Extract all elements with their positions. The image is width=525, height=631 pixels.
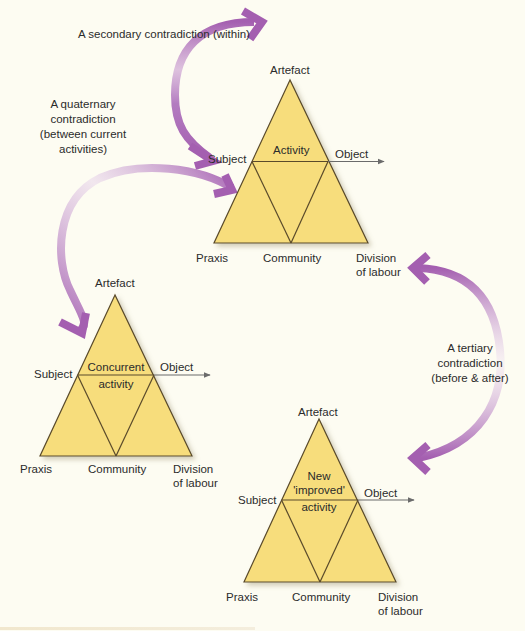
quaternary-line-4: activities)	[28, 142, 138, 157]
t1-praxis-label: Praxis	[196, 251, 228, 265]
t1-object-label: Object	[335, 147, 368, 161]
t3-center-line-2: 'improved'	[283, 483, 355, 497]
t1-division-line-2: of labour	[356, 265, 401, 279]
t1-division-label: Division of labour	[356, 251, 401, 279]
t3-object-label: Object	[364, 486, 397, 500]
quaternary-line-1: A quaternary	[28, 97, 138, 112]
t2-center-line-2: activity	[82, 377, 150, 391]
t2-praxis-label: Praxis	[20, 462, 52, 476]
tertiary-line-2: contradiction	[420, 356, 520, 371]
t3-center-line-1: New	[283, 469, 355, 483]
t2-division-line-1: Division	[173, 462, 218, 476]
t3-artefact-label: Artefact	[298, 405, 338, 419]
t3-praxis-label: Praxis	[226, 590, 258, 604]
tertiary-line-3: (before & after)	[420, 371, 520, 386]
t2-center-line-1: Concurrent	[82, 360, 150, 374]
t2-center-label: Concurrent activity	[82, 360, 150, 391]
t2-subject-label: Subject	[34, 367, 72, 381]
t1-community-label: Community	[263, 251, 321, 265]
t3-community-label: Community	[292, 590, 350, 604]
quaternary-contradiction-label: A quaternary contradiction (between curr…	[28, 97, 138, 157]
t3-division-label: Division of labour	[378, 590, 423, 618]
t3-division-line-1: Division	[378, 590, 423, 604]
tertiary-contradiction-label: A tertiary contradiction (before & after…	[420, 341, 520, 386]
tertiary-line-1: A tertiary	[420, 341, 520, 356]
t3-subject-label: Subject	[238, 493, 276, 507]
quaternary-line-3: (between current	[28, 127, 138, 142]
t2-division-label: Division of labour	[173, 462, 218, 490]
cropped-caption-strip	[0, 624, 525, 631]
t3-division-line-2: of labour	[378, 604, 423, 618]
t2-community-label: Community	[88, 462, 146, 476]
t1-subject-label: Subject	[208, 152, 246, 166]
t2-object-label: Object	[160, 360, 193, 374]
t3-center-label: New 'improved' activity	[283, 469, 355, 514]
t3-center-line-3: activity	[283, 500, 355, 514]
t2-division-line-2: of labour	[173, 476, 218, 490]
secondary-contradiction-label: A secondary contradiction (within)	[78, 27, 250, 42]
t1-artefact-label: Artefact	[270, 63, 310, 77]
quaternary-line-2: contradiction	[28, 112, 138, 127]
t1-center-label: Activity	[273, 143, 309, 157]
t2-artefact-label: Artefact	[95, 276, 135, 290]
diagram-canvas	[0, 0, 525, 631]
t1-division-line-1: Division	[356, 251, 401, 265]
